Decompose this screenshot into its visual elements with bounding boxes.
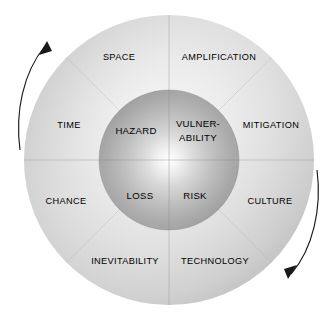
sector-label-space: SPACE	[103, 52, 135, 62]
concentric-circle-diagram: SPACE AMPLIFICATION TIME MITIGATION CHAN…	[0, 0, 334, 319]
sector-label-technology: TECHNOLOGY	[181, 256, 249, 266]
sector-label-inevitability: INEVITABILITY	[91, 256, 159, 266]
core-label-loss: LOSS	[127, 190, 154, 201]
core-label-risk: RISK	[183, 190, 207, 201]
rotation-arrow-right-head	[284, 265, 297, 279]
diagram-canvas: SPACE AMPLIFICATION TIME MITIGATION CHAN…	[0, 0, 334, 319]
rotation-arrow-left-head	[39, 41, 52, 55]
sector-label-culture: CULTURE	[247, 196, 292, 206]
core-label-vulnerability-line2: ABILITY	[179, 132, 217, 143]
sector-label-chance: CHANCE	[46, 196, 87, 206]
sector-label-mitigation: MITIGATION	[243, 120, 299, 130]
inner-core-circle	[99, 90, 239, 230]
core-label-vulnerability-line1: VULNER-	[176, 118, 220, 129]
core-label-hazard: HAZARD	[115, 125, 156, 136]
sector-label-amplification: AMPLIFICATION	[182, 52, 256, 62]
sector-label-time: TIME	[57, 120, 80, 130]
